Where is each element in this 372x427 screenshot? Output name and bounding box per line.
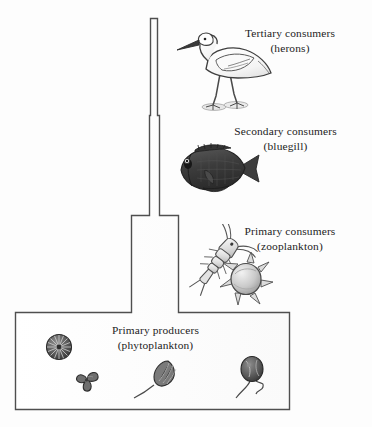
tier-label-primary-producers-sub: (phytoplankton)	[85, 338, 226, 353]
tier-label-tertiary-main: Tertiary consumers	[245, 27, 335, 39]
tier-label-primary-producers: Primary producers (phytoplankton)	[85, 323, 226, 352]
tier-label-secondary: Secondary consumers (bluegill)	[205, 124, 366, 153]
flagellate-icon	[132, 358, 182, 400]
diatom-icon	[44, 332, 74, 362]
tier-label-primary-consumers: Primary consumers (zooplankton)	[214, 224, 366, 253]
tier-label-secondary-sub: (bluegill)	[205, 139, 366, 154]
trophic-pyramid-figure: Tertiary consumers (herons)	[0, 0, 372, 427]
tier-label-primary-consumers-main: Primary consumers	[245, 225, 336, 237]
tri-lobed-alga-icon	[73, 367, 101, 393]
biflagellate-cell-icon	[230, 354, 274, 400]
tier-label-primary-producers-main: Primary producers	[112, 324, 199, 336]
tier-label-secondary-main: Secondary consumers	[234, 125, 337, 137]
tier-label-tertiary: Tertiary consumers (herons)	[214, 26, 366, 55]
tier-label-tertiary-sub: (herons)	[214, 41, 366, 56]
tier-label-primary-consumers-sub: (zooplankton)	[214, 239, 366, 254]
